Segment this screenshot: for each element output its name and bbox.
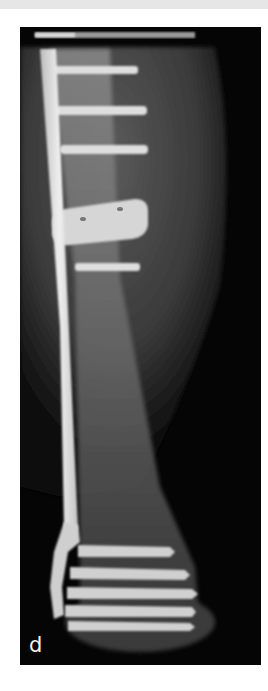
xray-graphic <box>20 27 261 665</box>
xray-image: d <box>20 27 261 665</box>
panel-label: d <box>29 635 42 656</box>
top-strip <box>0 0 268 9</box>
